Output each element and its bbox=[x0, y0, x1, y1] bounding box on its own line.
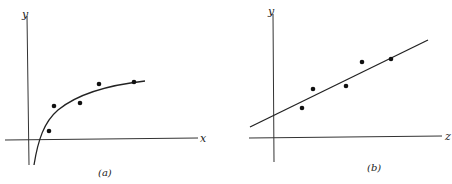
data-point bbox=[311, 87, 316, 92]
x-axis-b bbox=[249, 136, 442, 138]
fit-line-b bbox=[250, 40, 428, 127]
caption-b: (b) bbox=[367, 162, 381, 173]
y-axis-a bbox=[27, 16, 29, 165]
data-point bbox=[344, 84, 349, 89]
y-axis-label-a: y bbox=[21, 8, 29, 21]
data-points-b bbox=[300, 57, 394, 111]
data-point bbox=[97, 82, 102, 87]
data-points-a bbox=[47, 80, 137, 134]
data-point bbox=[300, 106, 305, 111]
panel-a: y x (a) bbox=[5, 8, 207, 178]
data-point bbox=[132, 80, 137, 85]
data-point bbox=[78, 101, 83, 106]
y-axis-label-b: y bbox=[267, 5, 275, 18]
data-point bbox=[52, 104, 57, 109]
figure: y x (a) y z (b) bbox=[0, 0, 452, 184]
x-axis-label-a: x bbox=[200, 132, 207, 145]
panel-b: y z (b) bbox=[249, 5, 451, 173]
data-point bbox=[360, 60, 365, 65]
y-axis-b bbox=[273, 14, 274, 162]
data-point bbox=[389, 57, 394, 62]
x-axis-label-b: z bbox=[444, 130, 451, 143]
x-axis-a bbox=[5, 138, 198, 140]
fit-curve-a bbox=[34, 81, 145, 165]
caption-a: (a) bbox=[98, 167, 112, 178]
data-point bbox=[47, 129, 52, 134]
